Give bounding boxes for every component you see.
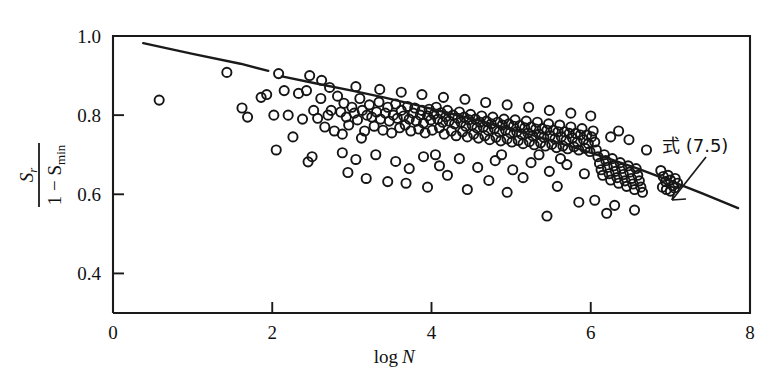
y-axis-tick-label: 0.8 [77,105,101,126]
x-axis-tick-label: 6 [586,322,596,343]
x-axis-title-variable: N [401,346,416,367]
scatter-plot-figure: 0.40.60.81.0 02468 式 (7.5) log N Sr [0,0,778,385]
equation-callout-label: 式 (7.5) [662,135,728,156]
x-axis-tick-label: 4 [427,322,437,343]
x-axis-tick-label: 2 [268,322,278,343]
y-axis-tick-label: 1.0 [77,26,101,47]
y-axis-numerator-symbol: S [16,172,37,182]
y-axis-denominator-subscript: min [53,144,68,165]
y-axis-denominator-lead: 1 − S [44,165,65,205]
y-axis-tick-label: 0.4 [77,263,101,284]
x-axis-tick-label: 0 [108,322,118,343]
x-axis-title-main: log [374,346,399,367]
y-axis-tick-label: 0.6 [77,184,101,205]
x-axis-title: log N [374,346,416,367]
x-axis-tick-label: 8 [745,322,755,343]
figure-container: 0.40.60.81.0 02468 式 (7.5) log N Sr [0,0,778,385]
